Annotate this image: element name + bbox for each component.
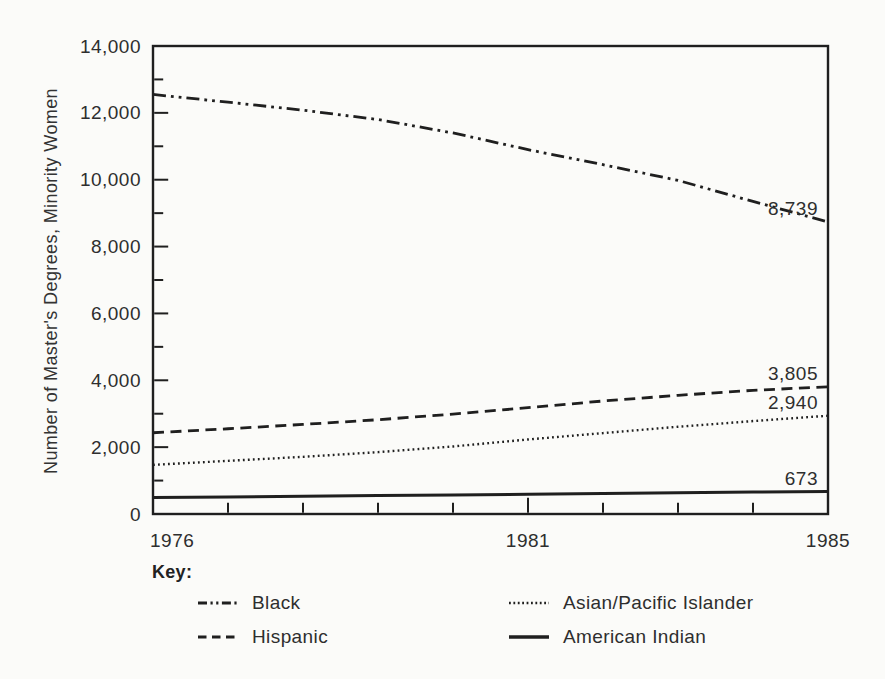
key-label-asian-pacific-islander: Asian/Pacific Islander (563, 592, 753, 614)
key-label-black: Black (252, 592, 300, 614)
key-label-hispanic: Hispanic (252, 626, 328, 648)
y-tick-label: 10,000 (80, 169, 141, 190)
x-tick-label: 1976 (150, 530, 194, 551)
key-item-black: Black (197, 586, 462, 620)
y-tick-label: 4,000 (91, 370, 141, 391)
line-chart: 02,0004,0006,0008,00010,00012,00014,0001… (0, 0, 885, 679)
series-line-american-indian (153, 492, 828, 498)
key-item-hispanic: Hispanic (197, 620, 462, 654)
series-line-asian-pacific-islander (153, 416, 828, 465)
y-tick-label: 0 (130, 504, 141, 525)
end-value-label-asian-pacific-islander: 2,940 (768, 392, 818, 413)
x-tick-label: 1985 (806, 530, 850, 551)
dashed-line-sample (197, 632, 239, 642)
series-line-black (153, 94, 828, 221)
y-tick-label: 2,000 (91, 437, 141, 458)
series-line-hispanic (153, 387, 828, 433)
dotted-line-sample (508, 598, 550, 608)
dash-dot-dot-line-sample (197, 598, 239, 608)
y-tick-label: 8,000 (91, 236, 141, 257)
key-label-american-indian: American Indian (563, 626, 706, 648)
plot-border (153, 46, 828, 514)
y-tick-label: 6,000 (91, 303, 141, 324)
figure-page: Number of Master's Degrees, Minority Wom… (0, 0, 885, 679)
solid-line-sample (508, 632, 550, 642)
key-item-asian-pacific-islander: Asian/Pacific Islander (508, 586, 753, 620)
x-tick-label: 1981 (506, 530, 550, 551)
key-title: Key: (152, 562, 192, 583)
y-tick-label: 14,000 (80, 36, 141, 57)
end-value-label-black: 8,739 (768, 198, 818, 219)
end-value-label-american-indian: 673 (785, 468, 818, 489)
chart-key: BlackHispanicAsian/Pacific IslanderAmeri… (197, 586, 753, 654)
end-value-label-hispanic: 3,805 (768, 363, 818, 384)
key-item-american-indian: American Indian (508, 620, 753, 654)
y-tick-label: 12,000 (80, 102, 141, 123)
